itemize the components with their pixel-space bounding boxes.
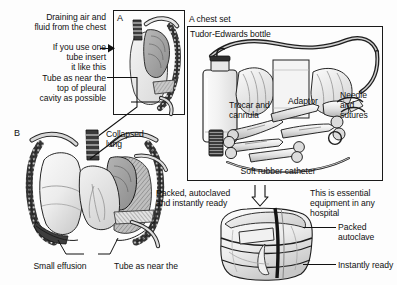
leader-line-packed-autoclave xyxy=(303,227,336,228)
leader-line-collapsed-lung xyxy=(84,133,124,163)
label-packed-autoclave: Packed autoclave xyxy=(338,222,394,242)
panel-a-caption-top: Draining air and fluid from the chest xyxy=(6,12,106,32)
chest-set-title: A chest set xyxy=(189,14,231,24)
panel-a-caption-tube: Tube as near the top of pleural cavity a… xyxy=(2,73,106,104)
figure-canvas: A xyxy=(0,0,397,285)
leader-line-instantly-ready xyxy=(303,264,336,265)
note-essential-equipment: This is essential equipment in any hospi… xyxy=(310,188,397,219)
autoclave-bundle-illustration xyxy=(215,204,319,282)
panel-a-caption-insert: If you use one tube insert it like this xyxy=(6,42,106,73)
label-soft-rubber-catheter: Soft rubber catheter xyxy=(213,166,343,176)
label-trocar-and-cannula: Trocar and cannula xyxy=(229,100,281,120)
label-tube-near-top: Tube as near the xyxy=(104,261,188,271)
label-instantly-ready: Instantly ready xyxy=(338,260,397,270)
label-small-effusion: Small effusion xyxy=(20,261,100,271)
label-needle-and-sutures: Needle and sutures xyxy=(340,90,392,121)
label-adaptor: Adaptor xyxy=(288,96,318,106)
arrowhead-insert xyxy=(108,44,116,53)
